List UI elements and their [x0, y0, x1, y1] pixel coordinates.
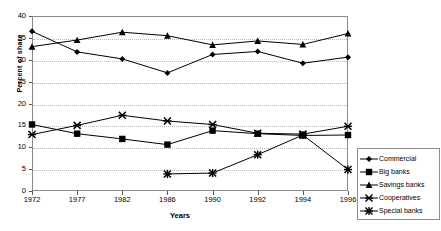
- series-savings-banks: [29, 29, 352, 50]
- data-point-square: [29, 121, 35, 127]
- data-point-cross: [118, 112, 126, 119]
- data-point-cross: [344, 123, 352, 130]
- data-point-asterisk: [254, 151, 262, 159]
- legend-marker-square-icon: [359, 166, 379, 178]
- x-axis-title: Years: [0, 211, 360, 220]
- data-point-asterisk: [299, 131, 307, 139]
- data-point-cross: [73, 122, 81, 129]
- series-layer: [32, 16, 348, 191]
- y-axis-tick-label: 25: [0, 78, 26, 86]
- x-axis-tick-label: 1986: [147, 196, 187, 204]
- data-point-asterisk: [344, 165, 352, 173]
- legend-label: Big banks: [379, 168, 410, 175]
- data-point-asterisk: [365, 206, 373, 214]
- data-point-diamond: [366, 156, 372, 162]
- data-point-square: [74, 130, 80, 136]
- data-point-diamond: [29, 28, 35, 34]
- data-point-square: [209, 127, 215, 133]
- line-chart-figure: Percent of share 0510152025303540 197219…: [0, 0, 441, 231]
- data-point-cross: [28, 131, 36, 138]
- data-point-square: [345, 132, 351, 138]
- data-point-diamond: [300, 60, 306, 66]
- legend-marker-diamond-icon: [359, 153, 379, 165]
- legend-label: Savings banks: [379, 181, 425, 188]
- legend-item-savings-banks[interactable]: Savings banks: [359, 178, 437, 191]
- data-point-square: [366, 168, 372, 174]
- y-axis-tick-label: 0: [0, 187, 26, 195]
- y-axis-tick-label: 35: [0, 34, 26, 42]
- legend-item-big-banks[interactable]: Big banks: [359, 165, 437, 178]
- x-axis-tick-label: 1990: [193, 196, 233, 204]
- data-point-diamond: [74, 49, 80, 55]
- data-point-asterisk: [208, 169, 216, 177]
- series-line: [32, 32, 348, 46]
- data-point-diamond: [119, 56, 125, 62]
- data-point-square: [164, 141, 170, 147]
- x-axis-tick-label: 1994: [283, 196, 323, 204]
- legend-label: Commercial: [379, 155, 416, 162]
- data-point-cross: [365, 194, 373, 201]
- legend-marker-triangle-icon: [359, 179, 379, 191]
- y-axis-tick-label: 30: [0, 56, 26, 64]
- data-point-cross: [163, 118, 171, 125]
- legend-label: Special banks: [379, 207, 423, 214]
- series-commercial: [29, 28, 351, 76]
- series-special-banks: [163, 131, 352, 178]
- legend-marker-cross-icon: [359, 192, 379, 204]
- legend-item-cooperatives[interactable]: Cooperatives: [359, 191, 437, 204]
- data-point-diamond: [345, 54, 351, 60]
- y-axis-tick-label: 10: [0, 143, 26, 151]
- legend-marker-asterisk-icon: [359, 205, 379, 217]
- data-point-diamond: [164, 70, 170, 76]
- x-axis-tick-label: 1992: [238, 196, 278, 204]
- y-axis-tick-label: 5: [0, 165, 26, 173]
- x-axis-tick-label: 1977: [57, 196, 97, 204]
- data-point-triangle: [345, 30, 352, 36]
- legend-item-commercial[interactable]: Commercial: [359, 152, 437, 165]
- data-point-square: [119, 136, 125, 142]
- x-axis-tick-label: 1982: [102, 196, 142, 204]
- x-axis-tick-label: 1972: [12, 196, 52, 204]
- legend: CommercialBig banksSavings banksCooperat…: [357, 148, 440, 220]
- legend-label: Cooperatives: [379, 194, 420, 201]
- data-point-asterisk: [163, 170, 171, 178]
- legend-item-special-banks[interactable]: Special banks: [359, 204, 437, 217]
- data-point-cross: [208, 121, 216, 128]
- y-axis-tick-label: 40: [0, 12, 26, 20]
- y-axis-tick-label: 20: [0, 100, 26, 108]
- y-axis-tick-label: 15: [0, 121, 26, 129]
- data-point-diamond: [210, 52, 216, 58]
- data-point-diamond: [255, 48, 261, 54]
